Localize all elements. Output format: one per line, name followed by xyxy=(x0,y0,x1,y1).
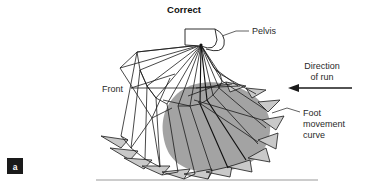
foot-curve-label-line2: movement xyxy=(303,119,346,129)
figure-panel: Correct Pelvis Front Direction of run Fo… xyxy=(0,0,369,192)
pelvis-leader-line xyxy=(222,31,249,36)
front-label: Front xyxy=(102,84,124,94)
panel-badge-label: a xyxy=(13,162,18,172)
direction-label-line1: Direction xyxy=(304,61,340,71)
foot-curve-leader-line xyxy=(272,108,300,113)
direction-arrow xyxy=(288,84,352,92)
gait-diagram: Correct Pelvis Front Direction of run Fo… xyxy=(0,0,369,192)
foot-curve-label-line1: Foot xyxy=(303,108,322,118)
panel-badge: a xyxy=(7,158,23,174)
figure-title: Correct xyxy=(167,4,202,15)
direction-label-line2: of run xyxy=(310,72,333,82)
pelvis-label: Pelvis xyxy=(252,26,277,36)
hip-pivot xyxy=(199,43,202,46)
foot-curve-label-line3: curve xyxy=(303,130,325,140)
